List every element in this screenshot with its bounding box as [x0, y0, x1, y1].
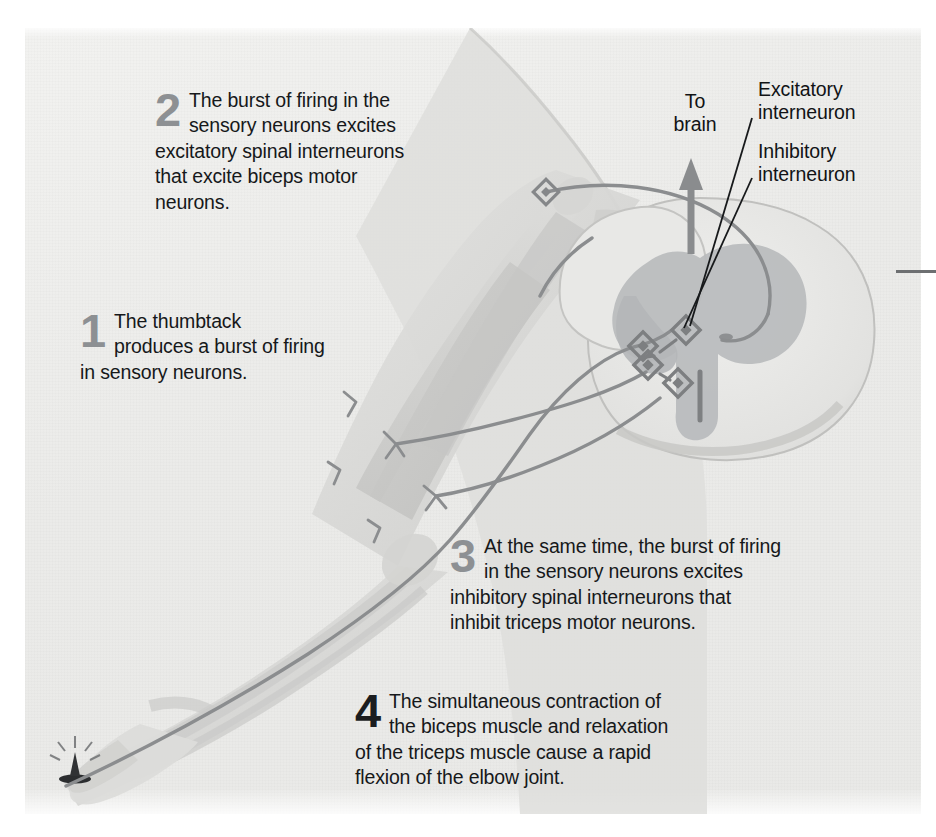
callout-text-4: The simultaneous contraction of the bice…: [355, 690, 668, 789]
label-inhibitory-interneuron: Inhibitory interneuron: [758, 140, 856, 186]
callout-number-2: 2: [155, 90, 181, 130]
label-to-brain: To brain: [660, 90, 730, 136]
page-sheen-bottom: [25, 788, 921, 814]
page-sheen-top: [25, 28, 921, 38]
callout-number-4: 4: [355, 691, 381, 731]
callout-step-3: 3At the same time, the burst of firing i…: [450, 508, 870, 636]
callout-text-2: The burst of firing in the sensory neuro…: [155, 89, 404, 213]
page-edge-tick: [896, 270, 936, 273]
callout-step-4: 4The simultaneous contraction of the bic…: [355, 663, 770, 791]
callout-number-1: 1: [80, 311, 106, 351]
callout-step-2: 2The burst of firing in the sensory neur…: [155, 62, 507, 215]
callout-text-1: The thumbtack produces a burst of firing…: [80, 310, 325, 383]
callout-text-3: At the same time, the burst of firing in…: [450, 535, 781, 634]
callout-step-1: 1The thumbtack produces a burst of firin…: [80, 283, 410, 385]
callout-number-3: 3: [450, 536, 476, 576]
label-excitatory-interneuron: Excitatory interneuron: [758, 78, 856, 124]
figure-page: 2The burst of firing in the sensory neur…: [0, 0, 936, 837]
